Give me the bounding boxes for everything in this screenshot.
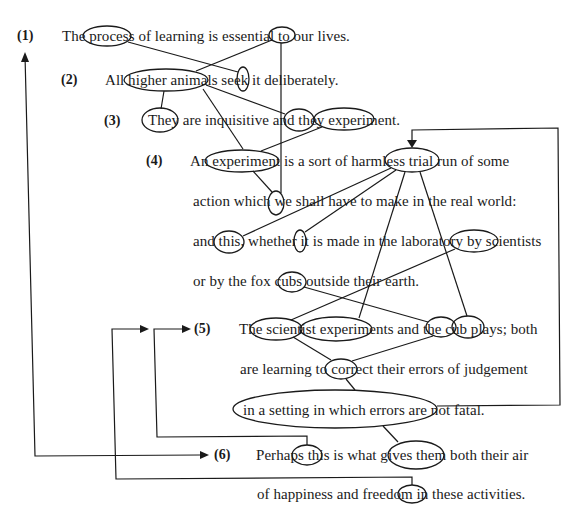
link-cub-their [352, 336, 433, 361]
arrowhead-sentence-6 [200, 451, 209, 459]
sentence-number-2: (2) [61, 71, 77, 89]
arrowhead-sentence-1 [21, 52, 29, 62]
link-setting-them-both [383, 426, 398, 442]
arrowhead-trial-run [407, 140, 417, 148]
sentence-4-line-1: An experiment is a sort of harmless tria… [190, 152, 509, 170]
sentence-6-line-2: of happiness and freedom in these activi… [257, 485, 525, 503]
link-cubs-cub [304, 287, 428, 322]
sentence-number-3: (3) [104, 112, 120, 130]
sentence-5-line-2: are learning to correct their errors of … [240, 360, 528, 378]
sentence-1: The process of learning is essential to … [62, 27, 350, 45]
cohesion-diagram: (1) (2) (3) (4) (5) (6) The process of l… [0, 0, 584, 527]
sentence-4-line-2: action which we shall have to make in th… [193, 192, 516, 210]
sentence-6-line-1: Perhaps this is what gives them both the… [256, 446, 528, 464]
sentence-4-line-3: and this, whether it is made in the labo… [193, 232, 541, 250]
arrowhead-sentence-5-inner [182, 325, 191, 333]
link-scientist-their [293, 337, 331, 360]
loop-this-to-sentence-5 [154, 329, 307, 445]
link-their-setting [346, 379, 355, 390]
sentence-number-4: (4) [146, 152, 162, 170]
sentence-number-5: (5) [194, 320, 210, 338]
link-higher-animals-they [206, 85, 285, 114]
link-experiment3-experiment4 [261, 127, 322, 151]
sentence-5-line-1: The scientist experiments and the cub pl… [239, 320, 538, 338]
arrowhead-sentence-5-outer [140, 325, 149, 333]
sentence-4-line-4: or by the fox cubs outside their earth. [193, 272, 419, 290]
link-experiment4-we [253, 171, 272, 192]
sentence-number-1: (1) [17, 27, 33, 45]
link-higher-animals-they-cap [161, 91, 164, 109]
sentence-3: They are inquisitive and they experiment… [148, 111, 400, 129]
sentence-number-6: (6) [214, 446, 230, 464]
sentence-2: All higher animals seek it deliberately. [105, 71, 338, 89]
link-process-it [128, 42, 238, 72]
sentence-5-line-3: in a setting in which errors are not fat… [243, 401, 485, 419]
